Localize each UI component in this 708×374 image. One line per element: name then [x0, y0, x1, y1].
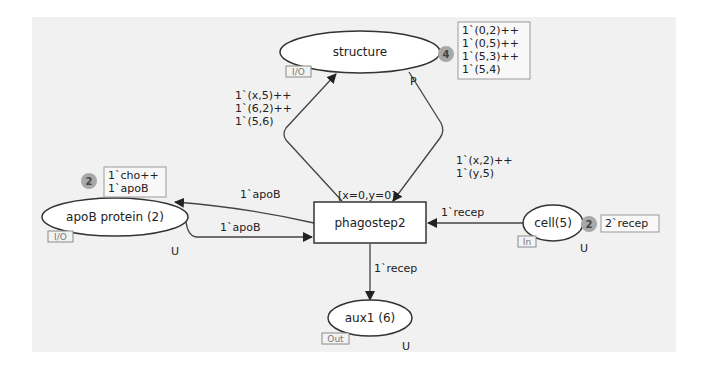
- arc-inscription-from-apob: 1`apoB: [220, 221, 261, 234]
- fusion-tag-apob: U: [171, 245, 179, 258]
- svg-text:2`recep: 2`recep: [605, 217, 648, 230]
- svg-text:1`(x,2)++: 1`(x,2)++: [456, 154, 513, 167]
- place-structure-label: structure: [333, 45, 387, 59]
- fusion-tag-structure: P: [410, 75, 417, 88]
- svg-text:Out: Out: [327, 334, 344, 344]
- port-tag-aux1: Out: [322, 333, 349, 344]
- arc-inscription-to-apob: 1`apoB: [240, 188, 281, 201]
- arc-transition-to-apob[interactable]: [175, 202, 314, 223]
- svg-text:I/O: I/O: [292, 67, 305, 77]
- place-apob-label: apoB protein (2): [66, 210, 164, 224]
- svg-text:1`(5,3)++: 1`(5,3)++: [462, 50, 519, 63]
- svg-text:2: 2: [86, 176, 93, 187]
- token-count-apob[interactable]: 2: [81, 173, 97, 189]
- transition-label: phagostep2: [334, 216, 405, 230]
- arc-inscription-from-structure: 1`(x,2)++ 1`(y,5): [456, 154, 513, 180]
- token-count-cell[interactable]: 2: [581, 216, 597, 232]
- place-apob-protein[interactable]: apoB protein (2): [42, 198, 188, 236]
- svg-text:1`(x,5)++: 1`(x,5)++: [235, 89, 292, 102]
- place-aux1-label: aux1 (6): [345, 311, 396, 325]
- arc-inscription-to-structure: 1`(x,5)++ 1`(6,2)++ 1`(5,6): [235, 89, 292, 128]
- svg-text:1`apoB: 1`apoB: [108, 182, 149, 195]
- svg-text:1`(0,2)++: 1`(0,2)++: [462, 24, 519, 37]
- petri-net-diagram: structure I/O P 4 1`(0,2)++ 1`(0,5)++ 1`…: [0, 0, 708, 374]
- port-tag-cell: In: [518, 236, 536, 247]
- port-tag-structure: I/O: [286, 66, 311, 77]
- place-aux1[interactable]: aux1 (6): [328, 300, 412, 336]
- svg-text:1`cho++: 1`cho++: [108, 169, 159, 182]
- token-count-structure[interactable]: 4: [438, 46, 454, 62]
- svg-text:4: 4: [443, 49, 450, 60]
- svg-text:1`(5,6): 1`(5,6): [235, 115, 274, 128]
- svg-text:2: 2: [586, 219, 593, 230]
- svg-text:1`(6,2)++: 1`(6,2)++: [235, 102, 292, 115]
- arc-transition-to-structure[interactable]: [284, 74, 342, 201]
- arc-inscription-from-cell: 1`recep: [441, 206, 484, 219]
- arc-structure-to-transition[interactable]: [393, 72, 443, 201]
- svg-text:1`(y,5): 1`(y,5): [456, 167, 494, 180]
- port-tag-apob: I/O: [48, 231, 73, 242]
- transition-phagostep2[interactable]: phagostep2: [314, 202, 426, 243]
- fusion-tag-cell: U: [580, 242, 588, 255]
- transition-guard: [x=0,y=0]: [338, 189, 396, 202]
- marking-cell: 2`recep: [601, 215, 659, 232]
- svg-text:I/O: I/O: [54, 232, 67, 242]
- svg-text:In: In: [523, 237, 531, 247]
- svg-text:1`(5,4): 1`(5,4): [462, 63, 501, 76]
- fusion-tag-aux1: U: [402, 340, 410, 353]
- marking-structure: 1`(0,2)++ 1`(0,5)++ 1`(5,3)++ 1`(5,4): [458, 22, 530, 79]
- marking-apob: 1`cho++ 1`apoB: [104, 167, 166, 197]
- svg-text:1`(0,5)++: 1`(0,5)++: [462, 37, 519, 50]
- arc-inscription-to-aux1: 1`recep: [374, 262, 417, 275]
- place-cell-label: cell(5): [534, 216, 572, 230]
